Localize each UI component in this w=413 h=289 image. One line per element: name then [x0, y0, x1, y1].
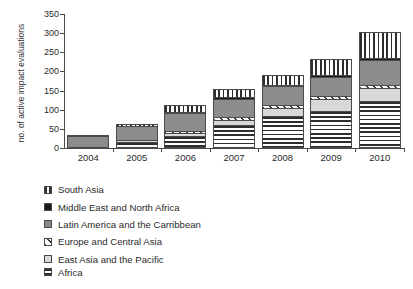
- y-tick-label: 200: [44, 67, 59, 76]
- bar-segment: [117, 125, 157, 127]
- solid-light-gray-swatch: [44, 255, 52, 263]
- x-tick-mark: [258, 148, 259, 152]
- legend-item-label: Africa: [58, 268, 83, 277]
- y-tick-label: 250: [44, 48, 59, 57]
- horizontal-stripes-swatch: [44, 268, 52, 276]
- stacked-bar: [262, 75, 304, 148]
- bar-segment: [360, 89, 400, 102]
- bar-segment: [165, 114, 205, 132]
- legend-item-label: Latin America and the Carribbean: [58, 219, 201, 230]
- x-tick-mark: [307, 148, 308, 152]
- bar-segment: [311, 60, 351, 76]
- legend-item: South Asia: [44, 181, 374, 198]
- bar-group: [213, 89, 255, 148]
- bar-segment: [165, 113, 205, 114]
- bar-group: [67, 135, 109, 148]
- x-tick-label: 2010: [359, 152, 401, 163]
- bar-segment: [214, 98, 254, 100]
- bar-segment: [214, 90, 254, 97]
- bar-segment: [214, 118, 254, 121]
- bar-segment: [68, 137, 108, 147]
- stacked-bar: [213, 89, 255, 148]
- bar-group: [262, 75, 304, 148]
- y-tick-mark: [60, 148, 64, 149]
- bar-group: [359, 32, 401, 148]
- bar-segment: [311, 97, 351, 100]
- x-tick-label: 2006: [164, 152, 206, 163]
- x-axis-line: [64, 148, 404, 149]
- solid-black-swatch: [44, 203, 52, 211]
- vertical-stripes-swatch: [44, 186, 52, 194]
- x-tick-mark: [210, 148, 211, 152]
- x-tick-label: 2007: [213, 152, 255, 163]
- y-tick-label: 100: [44, 105, 59, 114]
- bar-segment: [311, 76, 351, 78]
- x-tick-label: 2009: [310, 152, 352, 163]
- bar-segment: [263, 117, 303, 147]
- bar-segment: [360, 102, 400, 147]
- legend-item: East Asia and the Pacific: [44, 251, 374, 268]
- diagonal-hatch-swatch: [44, 238, 52, 246]
- bar-segment: [117, 143, 157, 147]
- legend-item-label: East Asia and the Pacific: [58, 254, 164, 265]
- x-tick-label: 2004: [67, 152, 109, 163]
- x-tick-mark: [113, 148, 114, 152]
- stacked-bar: [310, 59, 352, 148]
- bar-group: [116, 124, 158, 148]
- y-tick-label: 0: [54, 144, 59, 153]
- y-tick-label: 350: [44, 10, 59, 19]
- stacked-bar: [67, 135, 109, 148]
- bar-group: [310, 59, 352, 148]
- y-tick-label: 150: [44, 86, 59, 95]
- y-tick-label: 300: [44, 29, 59, 38]
- x-tick-mark: [404, 148, 405, 152]
- solid-medium-gray-swatch: [44, 220, 52, 228]
- stacked-bar: [164, 105, 206, 148]
- bar-segment: [214, 121, 254, 125]
- bar-segment: [311, 112, 351, 148]
- bar-segment: [360, 59, 400, 61]
- bar-segment: [68, 136, 108, 137]
- bar-segment: [360, 61, 400, 85]
- bar-segment: [360, 33, 400, 59]
- chart-legend: South AsiaMiddle East and North AfricaLa…: [44, 181, 374, 277]
- legend-item: Africa: [44, 268, 374, 277]
- bar-segment: [263, 86, 303, 88]
- bars-layer: [64, 14, 404, 148]
- stacked-bar: [116, 124, 158, 148]
- bar-segment: [214, 100, 254, 118]
- bar-segment: [263, 87, 303, 106]
- bar-segment: [165, 132, 205, 134]
- legend-item: Latin America and the Carribbean: [44, 216, 374, 233]
- bar-segment: [263, 109, 303, 117]
- legend-item: Middle East and North Africa: [44, 198, 374, 215]
- legend-item: Europe and Central Asia: [44, 233, 374, 250]
- stacked-bar: [359, 32, 401, 148]
- bar-segment: [311, 78, 351, 97]
- x-tick-mark: [161, 148, 162, 152]
- stacked-bar-chart: no. of active impact evaluations 0501001…: [0, 0, 413, 178]
- bar-segment: [117, 127, 157, 141]
- legend-item-label: Middle East and North Africa: [58, 202, 180, 213]
- bar-segment: [214, 126, 254, 147]
- plot-area: 050100150200250300350 200420052006200720…: [64, 14, 404, 148]
- bar-segment: [263, 106, 303, 109]
- legend-item-label: South Asia: [58, 184, 104, 195]
- legend-item-label: Europe and Central Asia: [58, 236, 162, 247]
- x-tick-mark: [355, 148, 356, 152]
- y-axis-title: no. of active impact evaluations: [16, 8, 26, 158]
- x-tick-label: 2008: [262, 152, 304, 163]
- y-tick-label: 50: [49, 124, 59, 133]
- bar-group: [164, 105, 206, 148]
- bar-segment: [263, 76, 303, 85]
- bar-segment: [311, 100, 351, 112]
- bar-segment: [165, 106, 205, 113]
- bar-segment: [360, 86, 400, 89]
- bar-segment: [165, 134, 205, 138]
- x-tick-label: 2005: [116, 152, 158, 163]
- bar-segment: [165, 137, 205, 147]
- bar-segment: [117, 141, 157, 142]
